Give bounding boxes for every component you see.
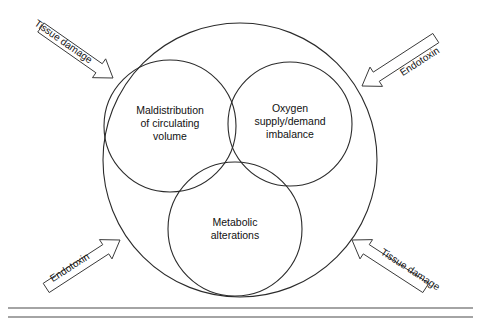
arrow-tissue-damage-bottom-right: Tissue damage xyxy=(352,240,442,293)
label-maldistribution: Maldistributionof circulatingvolume xyxy=(136,104,204,142)
venn-diagram-figure: Maldistributionof circulatingvolume Oxyg… xyxy=(0,0,481,326)
diagram-canvas: Maldistributionof circulatingvolume Oxyg… xyxy=(0,0,481,326)
label-metabolic: Metabolicalterations xyxy=(211,216,259,241)
arrow-label-tissue-damage-top-left: Tissue damage xyxy=(32,17,94,65)
arrow-tissue-damage-top-left: Tissue damage xyxy=(32,17,113,78)
label-oxygen: Oxygensupply/demandimbalance xyxy=(254,102,325,140)
arrow-shape-icon xyxy=(43,240,120,293)
arrow-endotoxin-top-right: Endotoxin xyxy=(362,33,441,86)
arrow-endotoxin-bottom-left: Endotoxin xyxy=(43,240,120,293)
